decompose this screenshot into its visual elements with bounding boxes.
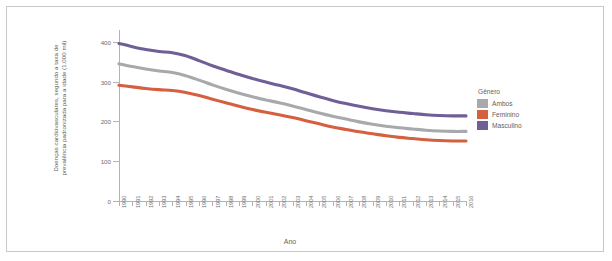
x-tick-label: 1994 — [175, 196, 181, 208]
y-tick-label: 0 — [83, 198, 111, 205]
legend-item-feminino[interactable]: Feminino — [477, 109, 567, 120]
series-line-ambos — [119, 64, 466, 132]
x-tick-label: 2008 — [361, 196, 367, 208]
x-tick-label: 1993 — [161, 196, 167, 208]
x-tick-mark — [172, 201, 173, 206]
y-tick-label: 400 — [83, 39, 111, 46]
legend-label: Masculino — [492, 121, 522, 130]
x-tick-mark — [212, 201, 213, 206]
y-axis-title-line1: Doenças cardiovasculares, segundo a taxa… — [52, 18, 60, 198]
x-tick-mark — [333, 201, 334, 206]
x-tick-label: 2007 — [348, 196, 354, 208]
y-axis-title: Doenças cardiovasculares, segundo a taxa… — [52, 0, 76, 18]
x-tick-mark — [252, 201, 253, 206]
x-tick-label: 2012 — [415, 196, 421, 208]
x-tick-mark — [159, 201, 160, 206]
legend-item-ambos[interactable]: Ambos — [477, 98, 567, 109]
legend-swatch-feminino — [477, 110, 488, 119]
x-tick-mark — [132, 201, 133, 206]
x-tick-mark — [199, 201, 200, 206]
legend-label: Feminino — [492, 110, 519, 119]
y-axis-title-line2: prevalência padronizada para a idade (1.… — [60, 18, 68, 198]
y-tick-mark — [113, 121, 119, 122]
legend-items: AmbosFemininoMasculino — [477, 98, 567, 131]
x-tick-label: 1998 — [228, 196, 234, 208]
x-tick-label: 2015 — [455, 196, 461, 208]
legend-item-masculino[interactable]: Masculino — [477, 120, 567, 131]
legend-swatch-masculino — [477, 121, 488, 130]
x-tick-label: 2001 — [268, 196, 274, 208]
x-tick-mark — [226, 201, 227, 206]
x-tick-label: 1996 — [201, 196, 207, 208]
x-tick-label: 1995 — [188, 196, 194, 208]
x-tick-label: 2013 — [428, 196, 434, 208]
x-tick-label: 2014 — [442, 196, 448, 208]
x-tick-mark — [279, 201, 280, 206]
x-tick-mark — [146, 201, 147, 206]
x-axis-title: Ano — [110, 238, 470, 245]
x-tick-label: 2000 — [255, 196, 261, 208]
y-tick-label: 100 — [83, 158, 111, 165]
x-tick-mark — [306, 201, 307, 206]
x-tick-mark — [346, 201, 347, 206]
x-tick-label: 2003 — [295, 196, 301, 208]
x-tick-mark — [186, 201, 187, 206]
y-axis-line — [119, 30, 120, 202]
x-tick-label: 2002 — [281, 196, 287, 208]
x-tick-mark — [413, 201, 414, 206]
x-tick-mark — [453, 201, 454, 206]
x-tick-mark — [119, 201, 120, 206]
x-tick-label: 2016 — [468, 196, 474, 208]
x-tick-label: 2010 — [388, 196, 394, 208]
y-tick-mark — [113, 42, 119, 43]
x-tick-label: 1997 — [215, 196, 221, 208]
legend-label: Ambos — [492, 99, 513, 108]
x-tick-mark — [439, 201, 440, 206]
legend-title: Gênero — [477, 88, 567, 95]
x-tick-mark — [293, 201, 294, 206]
x-tick-label: 1999 — [241, 196, 247, 208]
series-line-feminino — [119, 85, 466, 141]
x-tick-label: 1992 — [148, 196, 154, 208]
x-tick-mark — [466, 201, 467, 206]
x-tick-mark — [266, 201, 267, 206]
chart-plot-area: Doenças cardiovasculares, segundo a taxa… — [0, 0, 612, 261]
x-tick-mark — [426, 201, 427, 206]
legend: Gênero AmbosFemininoMasculino — [477, 88, 567, 131]
x-tick-mark — [239, 201, 240, 206]
x-tick-label: 2009 — [375, 196, 381, 208]
legend-swatch-ambos — [477, 99, 488, 108]
x-tick-label: 1990 — [121, 196, 127, 208]
x-tick-label: 2004 — [308, 196, 314, 208]
y-tick-mark — [113, 161, 119, 162]
x-tick-label: 1991 — [135, 196, 141, 208]
series-line-masculino — [119, 44, 466, 116]
x-tick-mark — [386, 201, 387, 206]
y-tick-mark — [113, 82, 119, 83]
y-tick-label: 300 — [83, 78, 111, 85]
y-tick-label: 200 — [83, 118, 111, 125]
x-tick-label: 2006 — [335, 196, 341, 208]
x-tick-label: 2005 — [321, 196, 327, 208]
x-tick-mark — [373, 201, 374, 206]
x-tick-label: 2011 — [401, 196, 407, 208]
